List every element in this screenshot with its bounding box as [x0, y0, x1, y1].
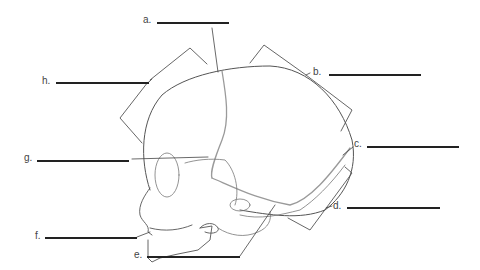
label-g: g.: [24, 153, 32, 163]
answer-blank-e[interactable]: [147, 256, 240, 258]
answer-blank-g[interactable]: [37, 160, 129, 162]
coronal-suture: [211, 71, 226, 178]
zygomatic: [185, 159, 237, 205]
label-e: e.: [134, 250, 142, 260]
label-h: h.: [42, 76, 50, 86]
leader-f: [137, 232, 150, 237]
bracket-anterior: [150, 48, 207, 80]
answer-blank-d[interactable]: [347, 207, 440, 209]
mandible-condyle: [200, 224, 218, 234]
leader-c: [343, 147, 353, 155]
orbit: [155, 153, 179, 197]
maxilla: [150, 225, 192, 230]
leader-b: [306, 73, 310, 75]
label-c: c.: [354, 139, 362, 149]
answer-blank-b[interactable]: [329, 74, 421, 76]
answer-blank-c[interactable]: [367, 146, 459, 148]
label-f: f.: [35, 231, 41, 241]
leader-a: [212, 28, 218, 72]
fetal-skull-diagram: [0, 0, 480, 270]
lambdoid-suture: [212, 148, 350, 205]
answer-blank-h[interactable]: [56, 82, 149, 84]
ear-canal: [230, 199, 250, 211]
answer-blank-a[interactable]: [157, 22, 229, 24]
cranial-base: [240, 165, 345, 217]
label-d: d.: [333, 201, 341, 211]
label-a: a.: [143, 15, 151, 25]
bracket-left: [120, 82, 148, 143]
bracket-posterior: [250, 45, 352, 131]
label-b: b.: [313, 67, 321, 77]
bracket-mastoid: [288, 167, 352, 230]
answer-blank-f[interactable]: [45, 237, 137, 239]
